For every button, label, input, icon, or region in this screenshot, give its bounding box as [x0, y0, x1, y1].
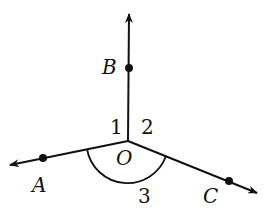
- point-a-dot: [39, 154, 47, 162]
- label-b: B: [102, 57, 117, 77]
- ray-diagram: B A C O 1 2 3: [0, 0, 276, 219]
- angle-3-label: 3: [138, 186, 151, 206]
- angle-2-label: 2: [141, 117, 154, 137]
- angle-1-label: 1: [110, 117, 123, 137]
- label-c: C: [203, 186, 218, 206]
- label-a: A: [32, 175, 46, 195]
- point-c-dot: [225, 177, 233, 185]
- ray-oa: [10, 141, 128, 165]
- ray-ob: [128, 14, 129, 141]
- point-b-dot: [125, 64, 133, 72]
- label-o: O: [116, 148, 132, 168]
